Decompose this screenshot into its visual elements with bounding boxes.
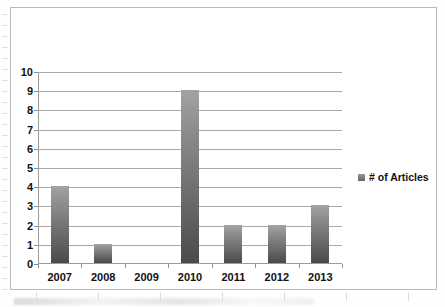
scan-edge-tick bbox=[2, 278, 8, 279]
scan-edge-tick bbox=[2, 69, 8, 70]
y-axis-tick-label: 8 bbox=[27, 105, 33, 116]
bar-slot bbox=[255, 72, 298, 263]
bar-2013 bbox=[311, 205, 329, 263]
bar-2010 bbox=[181, 90, 199, 263]
plot-area: 109876543210 200720082009201020112012201… bbox=[38, 72, 342, 264]
bar-slot bbox=[212, 72, 255, 263]
bar-chart: 109876543210 200720082009201020112012201… bbox=[10, 7, 437, 290]
scan-edge-tick bbox=[2, 146, 8, 147]
bar-slot bbox=[168, 72, 211, 263]
scan-edge-tick bbox=[2, 58, 8, 59]
scan-edge-tick bbox=[2, 80, 8, 81]
legend-label-articles: # of Articles bbox=[369, 172, 429, 183]
scan-edge-tick bbox=[222, 292, 223, 301]
scan-edge-tick bbox=[2, 212, 8, 213]
scan-edge-tick bbox=[2, 124, 8, 125]
scan-edge-tick bbox=[408, 292, 409, 301]
scan-edge-tick bbox=[98, 292, 99, 301]
scan-edge-tick bbox=[284, 292, 285, 301]
x-axis-tick-mark bbox=[212, 264, 213, 268]
x-axis-tick-label: 2007 bbox=[47, 272, 71, 283]
scan-edge-tick bbox=[2, 289, 8, 290]
scan-edge-tick bbox=[2, 157, 8, 158]
scan-edge-tick bbox=[2, 245, 8, 246]
scan-edge-tick bbox=[2, 102, 8, 103]
scan-edge-tick bbox=[2, 25, 8, 26]
scan-edge-tick bbox=[2, 256, 8, 257]
x-axis-tick-mark bbox=[255, 264, 256, 268]
bars-layer bbox=[38, 72, 342, 264]
scan-edge-tick bbox=[2, 190, 8, 191]
scan-edge-tick bbox=[2, 201, 8, 202]
y-axis-tick-label: 2 bbox=[27, 220, 33, 231]
x-axis-tick-mark bbox=[38, 264, 39, 268]
bar-slot bbox=[125, 72, 168, 263]
scan-edge-tick bbox=[2, 91, 8, 92]
bar-2012 bbox=[268, 225, 286, 263]
y-axis-tick-label: 10 bbox=[21, 67, 33, 78]
x-axis-tick-label: 2011 bbox=[221, 272, 245, 283]
scanned-page-background: 109876543210 200720082009201020112012201… bbox=[0, 0, 445, 307]
y-axis-tick-label: 3 bbox=[27, 201, 33, 212]
x-axis-tick-label: 2008 bbox=[91, 272, 115, 283]
x-axis-tick-mark bbox=[81, 264, 82, 268]
scan-edge-tick bbox=[2, 36, 8, 37]
y-axis-tick-label: 6 bbox=[27, 143, 33, 154]
scan-edge-tick bbox=[2, 267, 8, 268]
y-axis-tick-label: 5 bbox=[27, 163, 33, 174]
scan-edge-tick bbox=[2, 14, 8, 15]
y-axis-tick-label: 7 bbox=[27, 124, 33, 135]
x-axis-tick-mark bbox=[299, 264, 300, 268]
bar-2011 bbox=[224, 225, 242, 263]
chart-legend: # of Articles bbox=[358, 172, 429, 183]
scan-edge-tick bbox=[2, 223, 8, 224]
y-axis-tick-label: 4 bbox=[27, 182, 33, 193]
legend-swatch-articles bbox=[358, 174, 365, 181]
scan-edge-tick bbox=[346, 292, 347, 301]
x-axis-tick-mark bbox=[168, 264, 169, 268]
bar-slot bbox=[81, 72, 124, 263]
x-axis-tick-label: 2010 bbox=[178, 272, 202, 283]
x-axis-tick-mark bbox=[125, 264, 126, 268]
scan-edge-tick bbox=[36, 292, 37, 301]
scan-edge-tick bbox=[160, 292, 161, 301]
scan-artifact-smudge bbox=[14, 298, 314, 305]
x-axis-tick-label: 2012 bbox=[265, 272, 289, 283]
bar-slot bbox=[299, 72, 342, 263]
x-axis-tick-mark bbox=[342, 264, 343, 268]
bar-slot bbox=[38, 72, 81, 263]
y-axis-tick-label: 0 bbox=[27, 259, 33, 270]
scan-edge-tick bbox=[2, 179, 8, 180]
y-axis-tick-label: 9 bbox=[27, 86, 33, 97]
x-axis-tick-label: 2009 bbox=[134, 272, 158, 283]
scan-edge-tick bbox=[2, 234, 8, 235]
scan-edge-tick bbox=[2, 47, 8, 48]
scan-edge-tick bbox=[2, 168, 8, 169]
bar-2008 bbox=[94, 244, 112, 263]
x-axis-tick-label: 2013 bbox=[308, 272, 332, 283]
bar-2007 bbox=[51, 186, 69, 263]
scan-edge-tick bbox=[2, 135, 8, 136]
scan-edge-tick bbox=[2, 113, 8, 114]
y-axis-tick-label: 1 bbox=[27, 239, 33, 250]
